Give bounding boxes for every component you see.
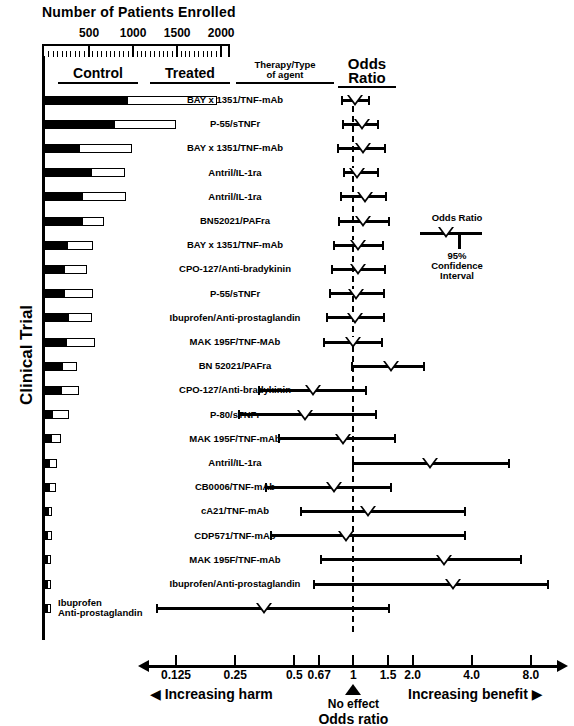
enrollment-bar: [45, 120, 176, 129]
confidence-interval-cap: [341, 96, 343, 105]
confidence-interval-cap: [384, 265, 386, 274]
confidence-interval-cap: [384, 144, 386, 153]
odds-ratio-marker-icon: [355, 216, 371, 227]
odds-ratio-marker-icon: [360, 506, 376, 517]
confidence-interval-cap: [464, 507, 466, 516]
odds-axis-tick: [471, 655, 473, 665]
confidence-interval-cap: [238, 410, 240, 419]
confidence-interval-cap: [156, 604, 158, 613]
enrollment-bar: [45, 483, 56, 492]
odds-ratio-marker-icon: [256, 603, 272, 614]
odds-ratio-marker-icon: [326, 482, 342, 493]
ruler-tick: [137, 51, 138, 57]
odds-axis-tick: [293, 655, 295, 665]
ruler-tick: [141, 51, 142, 57]
odds-ratio-marker-icon: [335, 434, 351, 445]
confidence-interval-cap: [343, 168, 345, 177]
confidence-interval-cap: [375, 410, 377, 419]
enrollment-bar-control-segment: [46, 556, 48, 563]
therapy-label: cA21/TNF-mAb: [160, 506, 310, 516]
odds-ratio-marker-icon: [354, 119, 370, 130]
confidence-interval-cap: [340, 192, 342, 201]
ruler-tick: [198, 51, 199, 57]
legend-title: Odds Ratio: [402, 212, 512, 223]
odds-axis-tick-label: 8.0: [505, 668, 557, 682]
enrollment-bar: [45, 313, 92, 322]
odds-axis-tick: [234, 655, 236, 665]
ruler-tick: [48, 51, 49, 57]
odds-axis-tick: [412, 655, 414, 665]
odds-ratio-axis-title: Odds ratio: [273, 711, 433, 726]
ruler-tick: [75, 51, 76, 57]
ruler-tick: [101, 51, 102, 57]
confidence-interval-cap: [464, 531, 466, 540]
ruler-tick: [132, 46, 134, 57]
confidence-interval-cap: [323, 338, 325, 347]
no-effect-label: No effect: [307, 697, 399, 711]
confidence-interval-cap: [382, 241, 384, 250]
ruler-tick: [211, 51, 212, 57]
confidence-interval-cap: [270, 531, 272, 540]
ruler-tick: [189, 51, 190, 57]
enrollment-bar-control-segment: [46, 121, 115, 128]
ruler-tick: [62, 51, 63, 57]
ruler-tick: [106, 51, 107, 57]
enrollment-bar-control-segment: [46, 97, 128, 104]
enrollment-bar-control-segment: [46, 411, 53, 418]
ruler-tick: [79, 51, 80, 57]
odds-axis-tick-label: 0.25: [209, 668, 261, 682]
odds-ratio-marker-icon: [305, 385, 321, 396]
column-header-odds-line2: Ratio: [338, 71, 396, 85]
column-header-treated: Treated: [150, 65, 230, 84]
confidence-interval-cap: [547, 580, 549, 589]
enrollment-bar-control-segment: [46, 266, 65, 273]
ruler-tick: [57, 51, 58, 57]
enrollment-bar: [45, 507, 52, 516]
confidence-interval-line: [321, 558, 521, 561]
enrollment-bar-control-segment: [46, 145, 80, 152]
enrollment-bar-control-segment: [46, 339, 67, 346]
enrollment-bar: [45, 217, 104, 226]
ruler-tick: [194, 51, 195, 57]
odds-axis-right-arrow-icon: [557, 660, 568, 672]
confidence-interval-cap: [368, 96, 370, 105]
confidence-interval-cap: [331, 265, 333, 274]
therapy-label: Antril/IL-1ra: [160, 168, 310, 178]
enrollment-bar: [45, 168, 125, 177]
odds-ratio-marker-icon: [350, 264, 366, 275]
odds-ratio-marker-icon: [350, 240, 366, 251]
enrollment-bar: [45, 434, 61, 443]
confidence-interval-cap: [351, 362, 353, 371]
therapy-label: BAY x 1351/TNF-mAb: [160, 95, 310, 105]
no-effect-arrow-icon: [345, 684, 361, 695]
odds-ratio-marker-icon: [383, 361, 399, 372]
ruler-tick: [88, 46, 90, 57]
legend-ci-pointer: [458, 232, 461, 249]
ruler-tick: [66, 51, 67, 57]
confidence-interval-cap: [333, 241, 335, 250]
column-header-odds-ratio: Odds Ratio: [338, 57, 396, 88]
confidence-interval-cap: [338, 217, 340, 226]
odds-ratio-marker-icon: [347, 313, 363, 324]
ruler-tick: [176, 46, 178, 57]
y-axis-label: Clinical Trial: [17, 295, 37, 415]
odds-ratio-marker-icon: [348, 289, 364, 300]
odds-ratio-marker-icon: [355, 143, 371, 154]
ruler-tick: [123, 51, 124, 57]
enrollment-bar: [45, 265, 87, 274]
enrollment-bar-control-segment: [46, 435, 52, 442]
enrollment-bar-control-segment: [46, 218, 83, 225]
enrollment-tick-label: 2000: [191, 26, 251, 40]
confidence-interval-cap: [258, 386, 260, 395]
increasing-harm-label: ◀ Increasing harm: [150, 686, 273, 702]
ruler-tick: [172, 51, 173, 57]
enrollment-bar: [45, 555, 51, 564]
odds-ratio-marker-icon: [349, 168, 365, 179]
therapy-label: Ibuprofen/Anti-prostaglandin: [160, 579, 310, 589]
enrollment-bar: [45, 362, 77, 371]
confidence-interval-cap: [265, 483, 267, 492]
enrollment-bar: [45, 410, 69, 419]
odds-axis-left-arrow-icon: [138, 660, 149, 672]
legend-odds-ratio-marker-icon: [438, 227, 454, 238]
therapy-label: Antril/IL-1ra: [160, 192, 310, 202]
